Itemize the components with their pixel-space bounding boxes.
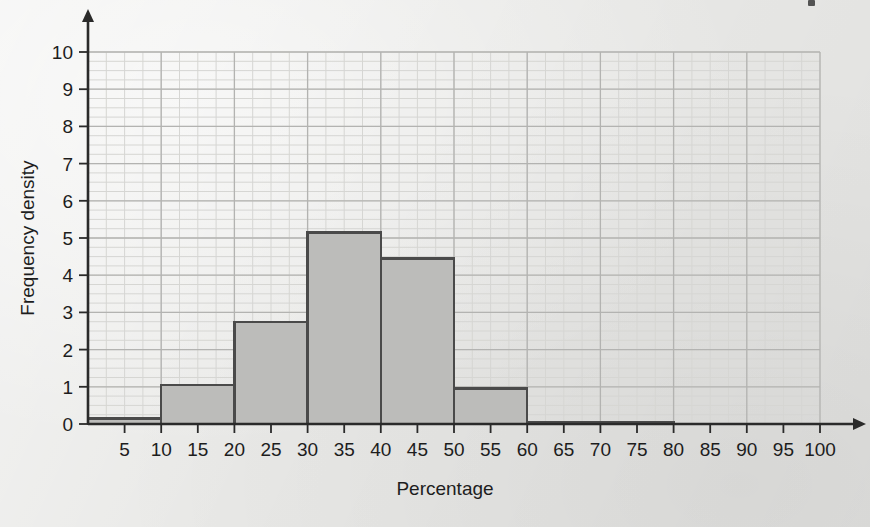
histogram-chart: 5101520253035404550556065707580859095100…	[0, 0, 870, 527]
histogram-bar	[234, 322, 307, 424]
histogram-bar	[161, 385, 234, 424]
x-tick-label: 65	[553, 439, 574, 460]
y-axis	[79, 9, 94, 424]
x-tick-label: 75	[626, 439, 647, 460]
histogram-bar	[381, 258, 454, 424]
y-tick-label: 6	[62, 191, 73, 212]
histogram-bar	[308, 232, 381, 424]
x-tick-label: 55	[480, 439, 501, 460]
x-axis-title: Percentage	[396, 478, 493, 499]
y-tick-label: 4	[62, 265, 73, 286]
x-tick-label: 5	[119, 439, 130, 460]
x-tick-label: 95	[773, 439, 794, 460]
x-tick-label: 70	[590, 439, 611, 460]
y-tick-labels: 012345678910	[52, 42, 74, 435]
y-axis-arrowhead	[82, 9, 94, 22]
x-tick-label: 10	[151, 439, 172, 460]
x-tick-label: 35	[334, 439, 355, 460]
x-tick-label: 100	[804, 439, 836, 460]
x-tick-label: 80	[663, 439, 684, 460]
y-tick-label: 0	[62, 414, 73, 435]
y-tick-label: 8	[62, 116, 73, 137]
y-tick-label: 1	[62, 377, 73, 398]
x-tick-label: 50	[443, 439, 464, 460]
x-tick-label: 15	[187, 439, 208, 460]
y-tick-label: 5	[62, 228, 73, 249]
x-tick-label: 20	[224, 439, 245, 460]
x-tick-label: 60	[517, 439, 538, 460]
y-tick-label: 9	[62, 79, 73, 100]
x-tick-labels: 5101520253035404550556065707580859095100	[119, 439, 836, 460]
histogram-bar	[454, 389, 527, 424]
x-axis-arrowhead	[853, 418, 866, 430]
y-tick-label: 3	[62, 302, 73, 323]
page-speck-artifact	[808, 0, 815, 6]
x-tick-label: 40	[370, 439, 391, 460]
x-tick-label: 45	[407, 439, 428, 460]
x-tick-label: 25	[260, 439, 281, 460]
x-tick-label: 90	[736, 439, 757, 460]
y-tick-label: 2	[62, 340, 73, 361]
y-axis-title: Frequency density	[17, 160, 38, 316]
y-tick-label: 7	[62, 154, 73, 175]
x-tick-label: 85	[700, 439, 721, 460]
x-tick-label: 30	[297, 439, 318, 460]
y-tick-label: 10	[52, 42, 73, 63]
bars-group	[88, 232, 674, 424]
chart-canvas: 5101520253035404550556065707580859095100…	[0, 0, 870, 527]
